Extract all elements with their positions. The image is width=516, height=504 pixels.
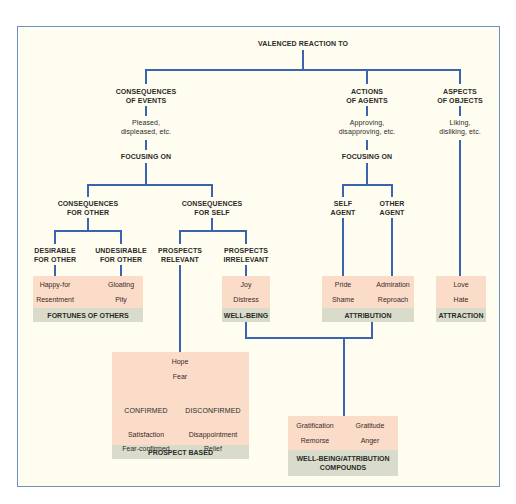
title-line: OF EVENTS bbox=[116, 96, 177, 105]
reaction-line: Approving, bbox=[339, 118, 396, 127]
emotion-pride: Pride bbox=[335, 280, 351, 289]
title-line: AGENT bbox=[331, 208, 356, 217]
objects-reaction-label: Liking, disliking, etc. bbox=[439, 118, 481, 136]
emotion-love: Love bbox=[453, 280, 468, 289]
attraction-caption: ATTRACTION bbox=[436, 308, 486, 322]
emotion-reproach: Reproach bbox=[378, 295, 408, 304]
agents-reaction-label: Approving, disapproving, etc. bbox=[339, 118, 396, 136]
emotion-hope: Hope bbox=[172, 357, 189, 366]
title-line: IRRELEVANT bbox=[223, 255, 268, 264]
title-line: ACTIONS bbox=[346, 87, 387, 96]
confirmed-label: CONFIRMED bbox=[124, 406, 167, 415]
undesirable-for-other-label: UNDESIRABLE FOR OTHER bbox=[95, 246, 147, 264]
title-line: FOR OTHER bbox=[95, 255, 147, 264]
emotion-joy: Joy bbox=[241, 280, 252, 289]
title-line: OF AGENTS bbox=[346, 96, 387, 105]
title-line: ASPECTS bbox=[437, 87, 483, 96]
compounds-caption: WELL-BEING/ATTRIBUTION COMPOUNDS bbox=[288, 450, 398, 476]
other-agent-label: OTHER AGENT bbox=[380, 199, 405, 217]
reaction-line: disapproving, etc. bbox=[339, 127, 396, 136]
title-line: DESIRABLE bbox=[34, 246, 76, 255]
emotion-gloating: Gloating bbox=[108, 280, 134, 289]
title-line: OTHER bbox=[380, 199, 405, 208]
consequences-for-other-label: CONSEQUENCES FOR OTHER bbox=[58, 199, 119, 217]
events-focusing-on-label: FOCUSING ON bbox=[121, 152, 172, 161]
emotion-anger: Anger bbox=[361, 436, 380, 445]
emotion-remorse: Remorse bbox=[301, 436, 329, 445]
title-line: FOR SELF bbox=[182, 208, 243, 217]
title-line: CONSEQUENCES bbox=[58, 199, 119, 208]
agents-focusing-on-label: FOCUSING ON bbox=[342, 152, 393, 161]
prospects-relevant-label: PROSPECTS RELEVANT bbox=[158, 246, 202, 264]
emotion-gratification: Gratification bbox=[296, 421, 333, 430]
title-line: SELF bbox=[331, 199, 356, 208]
reaction-line: Pleased, bbox=[121, 118, 171, 127]
emotion-fear-confirmed: Fear-confirmed bbox=[122, 444, 169, 453]
title-line: OF OBJECTS bbox=[437, 96, 483, 105]
title-line: CONSEQUENCES bbox=[116, 87, 177, 96]
emotion-resentment: Resentment bbox=[36, 295, 74, 304]
actions-of-agents-label: ACTIONS OF AGENTS bbox=[346, 87, 387, 105]
aspects-of-objects-label: ASPECTS OF OBJECTS bbox=[437, 87, 483, 105]
title-line: RELEVANT bbox=[158, 255, 202, 264]
caption-line: WELL-BEING/ATTRIBUTION bbox=[296, 454, 389, 463]
emotion-pity: Pity bbox=[115, 295, 127, 304]
prospects-irrelevant-label: PROSPECTS IRRELEVANT bbox=[223, 246, 268, 264]
emotion-gratitude: Gratitude bbox=[356, 421, 385, 430]
events-reaction-label: Pleased, displeased, etc. bbox=[121, 118, 171, 136]
reaction-line: disliking, etc. bbox=[439, 127, 481, 136]
reaction-line: displeased, etc. bbox=[121, 127, 171, 136]
emotion-distress: Distress bbox=[233, 295, 258, 304]
title-line: CONSEQUENCES bbox=[182, 199, 243, 208]
attribution-caption: ATTRIBUTION bbox=[322, 308, 414, 322]
desirable-for-other-label: DESIRABLE FOR OTHER bbox=[34, 246, 76, 264]
self-agent-label: SELF AGENT bbox=[331, 199, 356, 217]
caption-line: COMPOUNDS bbox=[320, 463, 366, 472]
title-line: PROSPECTS bbox=[158, 246, 202, 255]
emotion-satisfaction: Satisfaction bbox=[128, 430, 164, 439]
title-line: UNDESIRABLE bbox=[95, 246, 147, 255]
root-label: VALENCED REACTION TO bbox=[258, 39, 348, 48]
emotion-happy-for: Happy-for bbox=[40, 280, 71, 289]
emotion-shame: Shame bbox=[332, 295, 354, 304]
title-line: AGENT bbox=[380, 208, 405, 217]
well-being-caption: WELL-BEING bbox=[222, 308, 270, 322]
consequences-for-self-label: CONSEQUENCES FOR SELF bbox=[182, 199, 243, 217]
reaction-line: Liking, bbox=[439, 118, 481, 127]
emotion-admiration: Admiration bbox=[376, 280, 409, 289]
fortunes-of-others-caption: FORTUNES OF OTHERS bbox=[33, 308, 143, 322]
emotion-hate: Hate bbox=[454, 295, 469, 304]
emotion-disappointment: Disappointment bbox=[189, 430, 238, 439]
emotion-fear: Fear bbox=[173, 372, 187, 381]
disconfirmed-label: DISCONFIRMED bbox=[185, 406, 240, 415]
title-line: PROSPECTS bbox=[223, 246, 268, 255]
consequences-of-events-label: CONSEQUENCES OF EVENTS bbox=[116, 87, 177, 105]
title-line: FOR OTHER bbox=[58, 208, 119, 217]
emotion-relief: Relief bbox=[204, 444, 222, 453]
title-line: FOR OTHER bbox=[34, 255, 76, 264]
